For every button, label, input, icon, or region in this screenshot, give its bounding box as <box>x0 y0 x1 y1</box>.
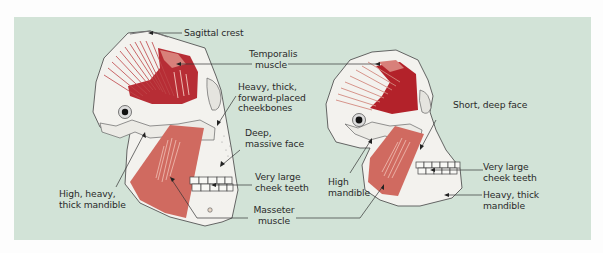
left-ear-canal <box>122 109 128 115</box>
label-sagittal-crest: Sagittal crest <box>184 28 243 39</box>
label-heavy-thick-mandible: Heavy, thick mandible <box>483 190 539 211</box>
left-mental-foramen <box>208 208 212 212</box>
label-cheekbones: Heavy, thick, forward-placed cheekbones <box>238 82 306 114</box>
label-left-cheek-teeth: Very large cheek teeth <box>255 172 309 193</box>
right-ear-canal <box>356 117 363 124</box>
label-deep-massive-face: Deep, massive face <box>245 128 304 149</box>
label-masseter-muscle: Masseter muscle <box>253 205 295 226</box>
label-high-heavy-thick-mandible: High, heavy, thick mandible <box>59 189 126 210</box>
right-cheek-teeth <box>416 162 460 174</box>
label-high-mandible: High mandible <box>328 177 370 198</box>
label-right-cheek-teeth: Very large cheek teeth <box>483 162 537 183</box>
label-temporalis-muscle: Temporalis muscle <box>249 49 293 70</box>
skull-comparison-illustration <box>0 0 603 253</box>
label-short-deep-face: Short, deep face <box>453 100 527 111</box>
left-cheek-teeth <box>190 177 233 191</box>
